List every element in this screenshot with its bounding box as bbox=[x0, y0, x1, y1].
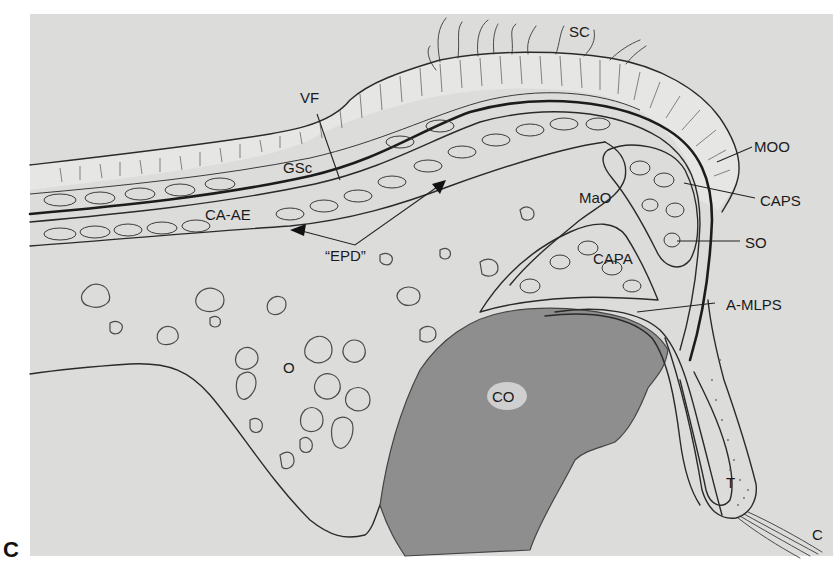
panel-letter: C bbox=[3, 537, 19, 562]
label-o: O bbox=[283, 359, 295, 376]
label-epd: “EPD” bbox=[325, 247, 366, 264]
anatomy-figure: SC VF GSc CA-AE “EPD” MaO MOO CAPS SO CA… bbox=[0, 0, 840, 566]
label-mao: MaO bbox=[579, 189, 612, 206]
label-so: SO bbox=[745, 234, 767, 251]
label-a-mlps: A-MLPS bbox=[726, 296, 782, 313]
label-capa: CAPA bbox=[593, 250, 633, 267]
label-c-cilia: C bbox=[812, 526, 823, 543]
label-ca-ae: CA-AE bbox=[205, 206, 251, 223]
label-t: T bbox=[726, 474, 735, 491]
label-vf: VF bbox=[300, 89, 319, 106]
label-sc: SC bbox=[569, 23, 590, 40]
label-co: CO bbox=[492, 388, 515, 405]
label-caps: CAPS bbox=[760, 192, 801, 209]
label-moo: MOO bbox=[754, 138, 790, 155]
label-gsc: GSc bbox=[283, 159, 313, 176]
